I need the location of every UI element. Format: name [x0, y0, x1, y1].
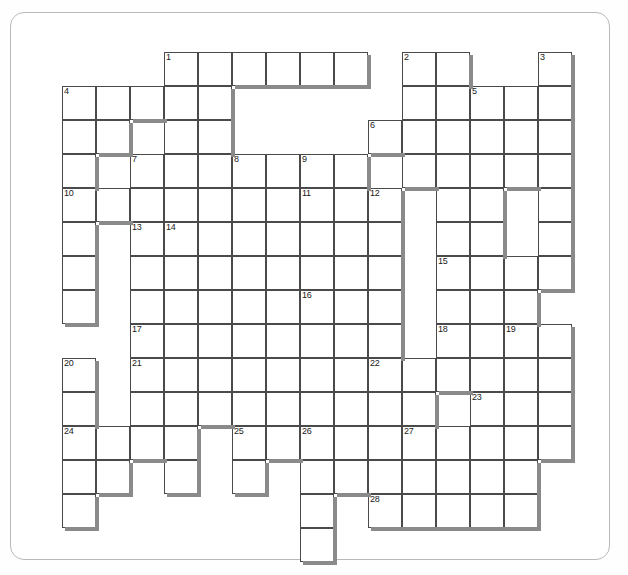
- grid-cell[interactable]: 20: [62, 358, 96, 392]
- grid-cell[interactable]: [402, 460, 436, 494]
- grid-cell[interactable]: [470, 460, 504, 494]
- grid-cell[interactable]: [402, 392, 436, 426]
- grid-cell[interactable]: [504, 426, 538, 460]
- grid-cell[interactable]: [334, 154, 368, 188]
- grid-cell[interactable]: [198, 120, 232, 154]
- grid-cell[interactable]: [164, 324, 198, 358]
- grid-cell[interactable]: 25: [232, 426, 266, 460]
- grid-cell[interactable]: [538, 120, 572, 154]
- grid-cell[interactable]: [164, 154, 198, 188]
- grid-cell[interactable]: [130, 188, 164, 222]
- grid-cell[interactable]: [504, 290, 538, 324]
- grid-cell[interactable]: [504, 154, 538, 188]
- grid-cell[interactable]: [164, 188, 198, 222]
- grid-cell[interactable]: [436, 494, 470, 528]
- grid-cell[interactable]: [538, 358, 572, 392]
- grid-cell[interactable]: [504, 86, 538, 120]
- grid-cell[interactable]: [470, 426, 504, 460]
- grid-cell[interactable]: 3: [538, 52, 572, 86]
- grid-cell[interactable]: [504, 392, 538, 426]
- grid-cell[interactable]: 26: [300, 426, 334, 460]
- grid-cell[interactable]: [164, 460, 198, 494]
- grid-cell[interactable]: [164, 290, 198, 324]
- crossword-grid[interactable]: 1234567891011121314151617181920212223242…: [0, 0, 628, 575]
- grid-cell[interactable]: 13: [130, 222, 164, 256]
- grid-cell[interactable]: [538, 256, 572, 290]
- grid-cell[interactable]: 15: [436, 256, 470, 290]
- grid-cell[interactable]: [232, 460, 266, 494]
- grid-cell[interactable]: [436, 290, 470, 324]
- grid-cell[interactable]: 6: [368, 120, 402, 154]
- grid-cell[interactable]: [62, 290, 96, 324]
- grid-cell[interactable]: [96, 460, 130, 494]
- grid-cell[interactable]: [368, 324, 402, 358]
- grid-cell[interactable]: [334, 222, 368, 256]
- grid-cell[interactable]: [232, 290, 266, 324]
- grid-cell[interactable]: [130, 86, 164, 120]
- grid-cell[interactable]: [164, 120, 198, 154]
- grid-cell[interactable]: [62, 392, 96, 426]
- grid-cell[interactable]: 14: [164, 222, 198, 256]
- grid-cell[interactable]: 19: [504, 324, 538, 358]
- grid-cell[interactable]: [232, 392, 266, 426]
- grid-cell[interactable]: [300, 256, 334, 290]
- grid-cell[interactable]: [504, 120, 538, 154]
- grid-cell[interactable]: [402, 86, 436, 120]
- grid-cell[interactable]: [504, 256, 538, 290]
- grid-cell[interactable]: [402, 120, 436, 154]
- grid-cell[interactable]: [300, 392, 334, 426]
- grid-cell[interactable]: [266, 324, 300, 358]
- grid-cell[interactable]: [198, 392, 232, 426]
- grid-cell[interactable]: [470, 256, 504, 290]
- grid-cell[interactable]: [232, 52, 266, 86]
- grid-cell[interactable]: [96, 188, 130, 222]
- grid-cell[interactable]: [504, 358, 538, 392]
- grid-cell[interactable]: [164, 256, 198, 290]
- grid-cell[interactable]: [300, 460, 334, 494]
- grid-cell[interactable]: 12: [368, 188, 402, 222]
- grid-cell[interactable]: [436, 358, 470, 392]
- grid-cell[interactable]: [368, 426, 402, 460]
- grid-cell[interactable]: 23: [470, 392, 504, 426]
- grid-cell[interactable]: [130, 392, 164, 426]
- grid-cell[interactable]: [198, 358, 232, 392]
- grid-cell[interactable]: 8: [232, 154, 266, 188]
- grid-cell[interactable]: [198, 52, 232, 86]
- grid-cell[interactable]: [368, 256, 402, 290]
- grid-cell[interactable]: [300, 358, 334, 392]
- grid-cell[interactable]: [198, 154, 232, 188]
- grid-cell[interactable]: [198, 324, 232, 358]
- grid-cell[interactable]: [436, 188, 470, 222]
- grid-cell[interactable]: [334, 358, 368, 392]
- grid-cell[interactable]: [130, 426, 164, 460]
- grid-cell[interactable]: [96, 426, 130, 460]
- grid-cell[interactable]: [300, 52, 334, 86]
- grid-cell[interactable]: [266, 222, 300, 256]
- grid-cell[interactable]: [96, 86, 130, 120]
- grid-cell[interactable]: [402, 494, 436, 528]
- grid-cell[interactable]: [436, 460, 470, 494]
- grid-cell[interactable]: [266, 52, 300, 86]
- grid-cell[interactable]: [402, 358, 436, 392]
- grid-cell[interactable]: [96, 120, 130, 154]
- grid-cell[interactable]: 18: [436, 324, 470, 358]
- grid-cell[interactable]: [470, 188, 504, 222]
- grid-cell[interactable]: [504, 460, 538, 494]
- grid-cell[interactable]: [266, 426, 300, 460]
- grid-cell[interactable]: [164, 426, 198, 460]
- grid-cell[interactable]: [334, 188, 368, 222]
- grid-cell[interactable]: [470, 324, 504, 358]
- grid-cell[interactable]: [232, 222, 266, 256]
- grid-cell[interactable]: 28: [368, 494, 402, 528]
- grid-cell[interactable]: [130, 256, 164, 290]
- grid-cell[interactable]: [300, 494, 334, 528]
- grid-cell[interactable]: [300, 324, 334, 358]
- grid-cell[interactable]: 10: [62, 188, 96, 222]
- grid-cell[interactable]: [266, 188, 300, 222]
- grid-cell[interactable]: [130, 290, 164, 324]
- grid-cell[interactable]: [538, 392, 572, 426]
- grid-cell[interactable]: 5: [470, 86, 504, 120]
- grid-cell[interactable]: [436, 426, 470, 460]
- grid-cell[interactable]: [436, 154, 470, 188]
- grid-cell[interactable]: [232, 256, 266, 290]
